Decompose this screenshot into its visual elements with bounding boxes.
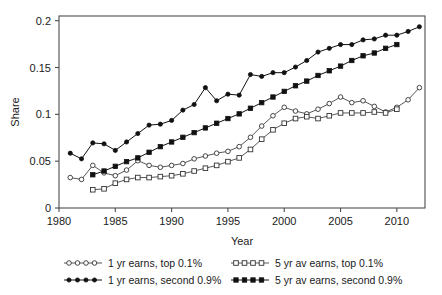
marker-solid-circle [113,148,117,152]
marker-open-circle [79,177,84,182]
marker-open-circle [68,175,73,180]
marker-open-circle [293,109,298,114]
marker-solid-square [124,159,128,163]
y-axis-title: Share [9,97,21,126]
marker-solid-circle [350,42,354,46]
marker-solid-square [271,95,275,99]
marker-solid-square [293,84,297,88]
marker-solid-circle [102,142,106,146]
marker-solid-square [113,164,117,168]
marker-open-square [102,187,107,192]
marker-solid-circle [417,25,421,29]
marker-solid-circle [361,38,365,42]
marker-solid-square [203,126,207,130]
marker-open-square [383,111,388,116]
marker-solid-circle [67,278,71,282]
marker-open-square [147,175,152,180]
marker-open-circle [338,95,343,100]
marker-open-square [259,261,264,266]
x-tick-label: 2000 [272,215,296,227]
marker-solid-circle [203,86,207,90]
marker-open-circle [169,163,174,168]
marker-solid-square [316,73,320,77]
x-tick-label: 1990 [159,215,183,227]
marker-solid-square [147,150,151,154]
marker-solid-circle [181,108,185,112]
marker-open-circle [158,165,163,170]
marker-open-circle [282,105,287,110]
x-tick-label: 1985 [103,215,127,227]
marker-open-circle [113,173,118,178]
marker-open-circle [124,168,129,173]
marker-solid-square [158,144,162,148]
marker-solid-circle [372,37,376,41]
marker-open-square [90,187,95,192]
marker-open-square [237,156,242,161]
marker-solid-square [327,69,331,73]
marker-solid-square [136,156,140,160]
y-tick-label: 0.2 [36,15,51,27]
marker-open-square [226,159,231,164]
marker-open-square [293,116,298,121]
marker-solid-circle [68,151,72,155]
marker-solid-circle [215,99,219,103]
marker-open-square [248,147,253,152]
marker-open-square [181,172,186,177]
marker-open-circle [90,163,95,168]
marker-open-circle [361,98,366,103]
marker-solid-circle [406,29,410,33]
marker-open-square [282,121,287,126]
marker-solid-square [251,278,255,282]
legend-label: 5 yr av earns, top 0.1% [275,257,383,269]
marker-open-circle [248,135,253,140]
marker-solid-square [259,278,263,282]
figure-background [0,0,442,295]
marker-open-circle [259,124,264,129]
marker-solid-circle [383,33,387,37]
marker-open-circle [417,85,422,90]
marker-open-square [192,169,197,174]
marker-open-circle [350,100,355,105]
marker-solid-square [395,42,399,46]
marker-open-circle [316,107,321,112]
marker-solid-circle [84,278,88,282]
x-tick-label: 1980 [47,215,71,227]
marker-open-circle [226,149,231,154]
marker-open-circle [203,154,208,159]
marker-open-square [304,114,309,119]
marker-solid-circle [136,131,140,135]
marker-open-square [251,261,256,266]
marker-solid-circle [282,71,286,75]
marker-solid-square [102,169,106,173]
marker-solid-circle [170,118,174,122]
marker-open-square [271,127,276,132]
marker-solid-square [248,106,252,110]
marker-solid-square [260,100,264,104]
marker-solid-circle [260,74,264,78]
marker-solid-square [192,130,196,134]
marker-open-square [234,261,239,266]
marker-solid-circle [338,42,342,46]
marker-solid-circle [192,102,196,106]
marker-solid-circle [226,92,230,96]
marker-open-square [327,113,332,118]
marker-open-square [338,111,343,116]
x-axis-title: Year [231,235,254,247]
marker-solid-square [242,278,246,282]
marker-open-circle [372,104,377,109]
marker-open-square [395,107,400,112]
y-tick-label: 0.1 [36,108,51,120]
marker-open-circle [237,144,242,149]
marker-solid-circle [92,278,96,282]
marker-open-square [203,166,208,171]
marker-solid-circle [124,140,128,144]
marker-solid-square [350,58,354,62]
marker-open-circle [181,161,186,166]
x-tick-label: 2005 [328,215,352,227]
marker-solid-square [282,89,286,93]
marker-open-circle [67,261,72,266]
marker-solid-square [372,51,376,55]
marker-open-square [350,111,355,116]
marker-solid-circle [75,278,79,282]
marker-solid-circle [271,71,275,75]
